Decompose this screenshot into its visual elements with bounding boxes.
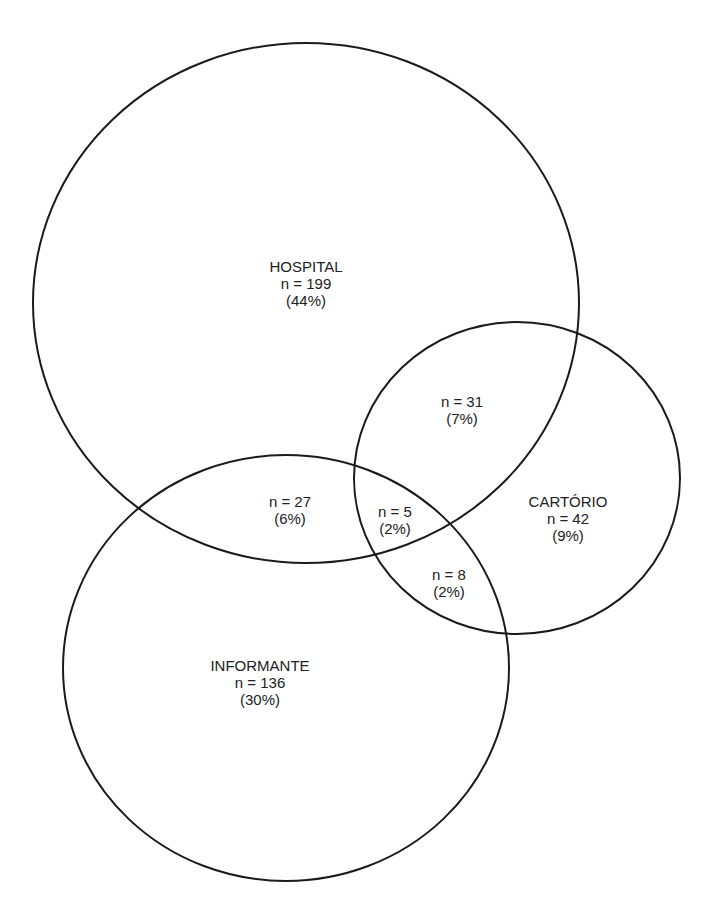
venn-diagram [0,0,714,908]
hospital-cartorio-label: n = 31 (7%) [441,393,483,427]
all-three-count: n = 5 [378,503,412,520]
informante-name: INFORMANTE [210,657,309,674]
all-three-pct: (2%) [378,520,412,537]
cartorio-informante-label: n = 8 (2%) [432,566,466,600]
hospital-cartorio-count: n = 31 [441,393,483,410]
hospital-informante-pct: (6%) [269,510,311,527]
hospital-informante-label: n = 27 (6%) [269,493,311,527]
hospital-name: HOSPITAL [269,258,342,275]
cartorio-informante-count: n = 8 [432,566,466,583]
hospital-informante-count: n = 27 [269,493,311,510]
informante-pct: (30%) [210,691,309,708]
all-three-label: n = 5 (2%) [378,503,412,537]
cartorio-count: n = 42 [529,510,608,527]
cartorio-informante-pct: (2%) [432,583,466,600]
informante-count: n = 136 [210,674,309,691]
cartorio-name: CARTÓRIO [529,493,608,510]
hospital-label: HOSPITAL n = 199 (44%) [269,258,342,309]
cartorio-circle [354,322,680,634]
hospital-cartorio-pct: (7%) [441,410,483,427]
cartorio-label: CARTÓRIO n = 42 (9%) [529,493,608,544]
informante-label: INFORMANTE n = 136 (30%) [210,657,309,708]
cartorio-pct: (9%) [529,527,608,544]
hospital-count: n = 199 [269,275,342,292]
hospital-pct: (44%) [269,292,342,309]
